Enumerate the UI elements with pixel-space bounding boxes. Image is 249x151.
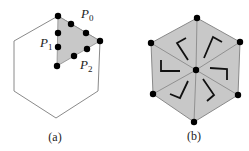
- caption-a: (a): [48, 130, 61, 144]
- label-p2: P2: [79, 57, 92, 74]
- label-p1: P1: [39, 35, 52, 52]
- caption-b: (b): [187, 129, 201, 143]
- panel-a: P0 P1 P2 (a): [14, 6, 103, 144]
- figure: P0 P1 P2 (a): [0, 0, 249, 151]
- label-p0: P0: [80, 6, 94, 23]
- shaded-sector-a: [57, 16, 100, 66]
- panel-b: (b): [148, 15, 243, 143]
